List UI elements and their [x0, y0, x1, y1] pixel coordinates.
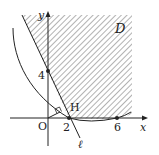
point-x2 [67, 116, 71, 120]
region-label: D [114, 21, 126, 36]
diagram: y x D O 4 2 6 H ℓ [0, 0, 159, 155]
tick-label-y4: 4 [38, 69, 45, 82]
point-y4 [46, 69, 50, 73]
axis-y-label: y [37, 9, 45, 22]
origin-label: O [38, 120, 47, 133]
point-x6 [115, 116, 119, 120]
foot-label-h: H [70, 101, 80, 114]
line-label-l: ℓ [78, 138, 83, 151]
tick-label-x2: 2 [63, 121, 70, 134]
region-d [0, 0, 159, 155]
segment-oh [48, 112, 60, 118]
tick-label-x6: 6 [114, 121, 121, 134]
axis-x-label: x [140, 121, 147, 134]
